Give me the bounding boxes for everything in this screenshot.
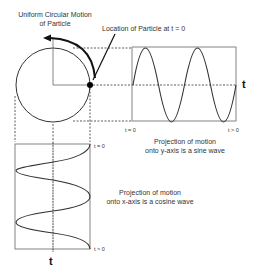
rotation-arrow <box>50 38 95 78</box>
particle-dot <box>87 82 93 88</box>
circular-motion-diagram <box>0 0 255 274</box>
cosine-end-label: t > 0 <box>94 246 105 252</box>
particle-location-label: Location of Particle at t = 0 <box>102 25 185 33</box>
cosine-caption-line1: Projection of motion <box>105 189 195 197</box>
cosine-start-label: t = 0 <box>94 143 105 149</box>
title-line2: of Particle <box>10 20 100 28</box>
cosine-caption-line2: onto x-axis is a cosine wave <box>98 198 202 206</box>
sine-t-axis-label: t <box>242 78 246 91</box>
sine-start-label: t = 0 <box>125 127 136 133</box>
cosine-t-axis-label: t <box>49 255 53 268</box>
sine-caption-line2: onto y-axis is a sine wave <box>135 147 235 155</box>
sine-panel-box <box>132 47 236 121</box>
sine-caption-line1: Projection of motion <box>140 138 230 146</box>
sine-end-label: t > 0 <box>228 127 239 133</box>
rotation-arrowhead-icon <box>43 35 51 42</box>
particle-pointer <box>93 34 115 80</box>
title-line1: Uniform Circular Motion <box>10 11 100 19</box>
